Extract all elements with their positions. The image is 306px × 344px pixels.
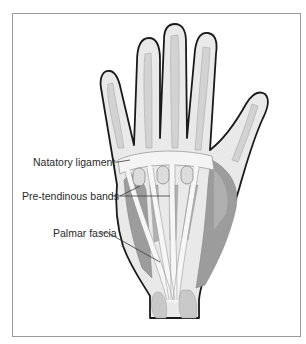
label-natatory-ligament: Natatory ligament <box>33 156 115 168</box>
label-pretendinous-bands: Pre-tendinous bands <box>22 190 119 202</box>
hand-illustration <box>0 0 306 344</box>
label-palmar-fascia: Palmar fascia <box>53 227 117 239</box>
band-windows <box>133 166 193 186</box>
